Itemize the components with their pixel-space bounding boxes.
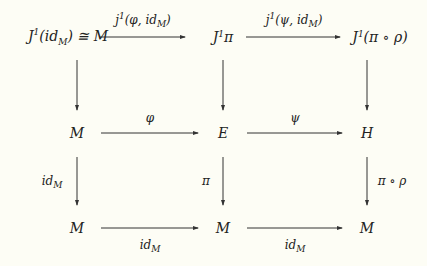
node-jet-pi: J1π bbox=[213, 29, 234, 46]
label-pi: π bbox=[202, 174, 210, 188]
node-jet-pi-rho: J1(π ∘ ρ) bbox=[352, 29, 407, 46]
node-M-r3c1: M bbox=[70, 220, 84, 236]
label-j1-phi-id: j1(φ, idM) bbox=[115, 11, 171, 29]
node-jet-id-iso-M: J1(idM) ≅ M bbox=[28, 27, 108, 46]
label-id-M-bottom-left: idM bbox=[140, 238, 161, 254]
node-M-r3c2: M bbox=[216, 220, 230, 236]
label-j1-psi-id: j1(ψ, idM) bbox=[266, 11, 323, 29]
node-M-r3c3: M bbox=[360, 220, 374, 236]
label-phi: φ bbox=[146, 111, 154, 125]
label-id-M-bottom-right: idM bbox=[285, 238, 306, 254]
node-H: H bbox=[361, 125, 373, 141]
node-E: E bbox=[218, 125, 228, 141]
node-M-r2: M bbox=[70, 125, 84, 141]
label-id-M-left: idM bbox=[42, 174, 63, 190]
label-pi-circ-rho: π ∘ ρ bbox=[378, 174, 406, 188]
label-psi: ψ bbox=[290, 111, 299, 125]
